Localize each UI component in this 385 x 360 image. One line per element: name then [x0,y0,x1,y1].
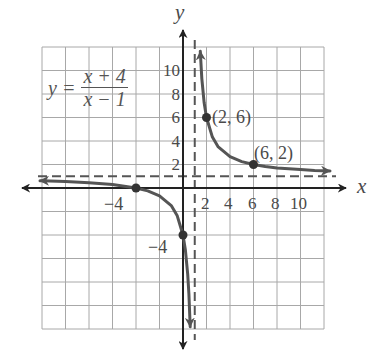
y-tick-4: 4 [150,133,180,150]
point-label-2-6: (2, 6) [212,108,251,126]
x-tick-2: 2 [201,195,210,212]
y-tick-2: 2 [150,156,180,173]
point-label-6-2: (6, 2) [254,144,293,162]
point-neg4-0 [132,184,141,193]
x-tick-10: 10 [290,195,307,212]
equation-label: y = x + 4 x − 1 [48,66,128,110]
y-tick-10: 10 [150,62,180,79]
equation-lhs: y = [48,77,75,100]
equation-denominator: x − 1 [81,87,127,110]
x-tick-6: 6 [248,195,257,212]
point-0-neg4 [179,231,188,240]
graph-canvas [0,0,385,360]
equation-numerator: x + 4 [81,66,127,87]
y-tick-neg4: −4 [148,238,167,256]
y-tick-6: 6 [150,109,180,126]
equation-fraction: x + 4 x − 1 [81,66,127,110]
y-axis-label: y [175,2,184,23]
x-tick-8: 8 [271,195,280,212]
x-tick-neg4: −4 [104,195,123,213]
x-tick-4: 4 [224,195,233,212]
y-tick-8: 8 [150,86,180,103]
x-axis-label: x [357,176,366,197]
point-2-6 [202,113,211,122]
